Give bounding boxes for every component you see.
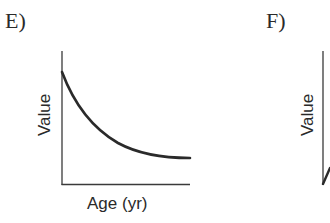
panel-f-curve-start	[323, 168, 330, 184]
panel-e-decay-curve	[62, 72, 190, 158]
chart-canvas	[0, 0, 330, 223]
